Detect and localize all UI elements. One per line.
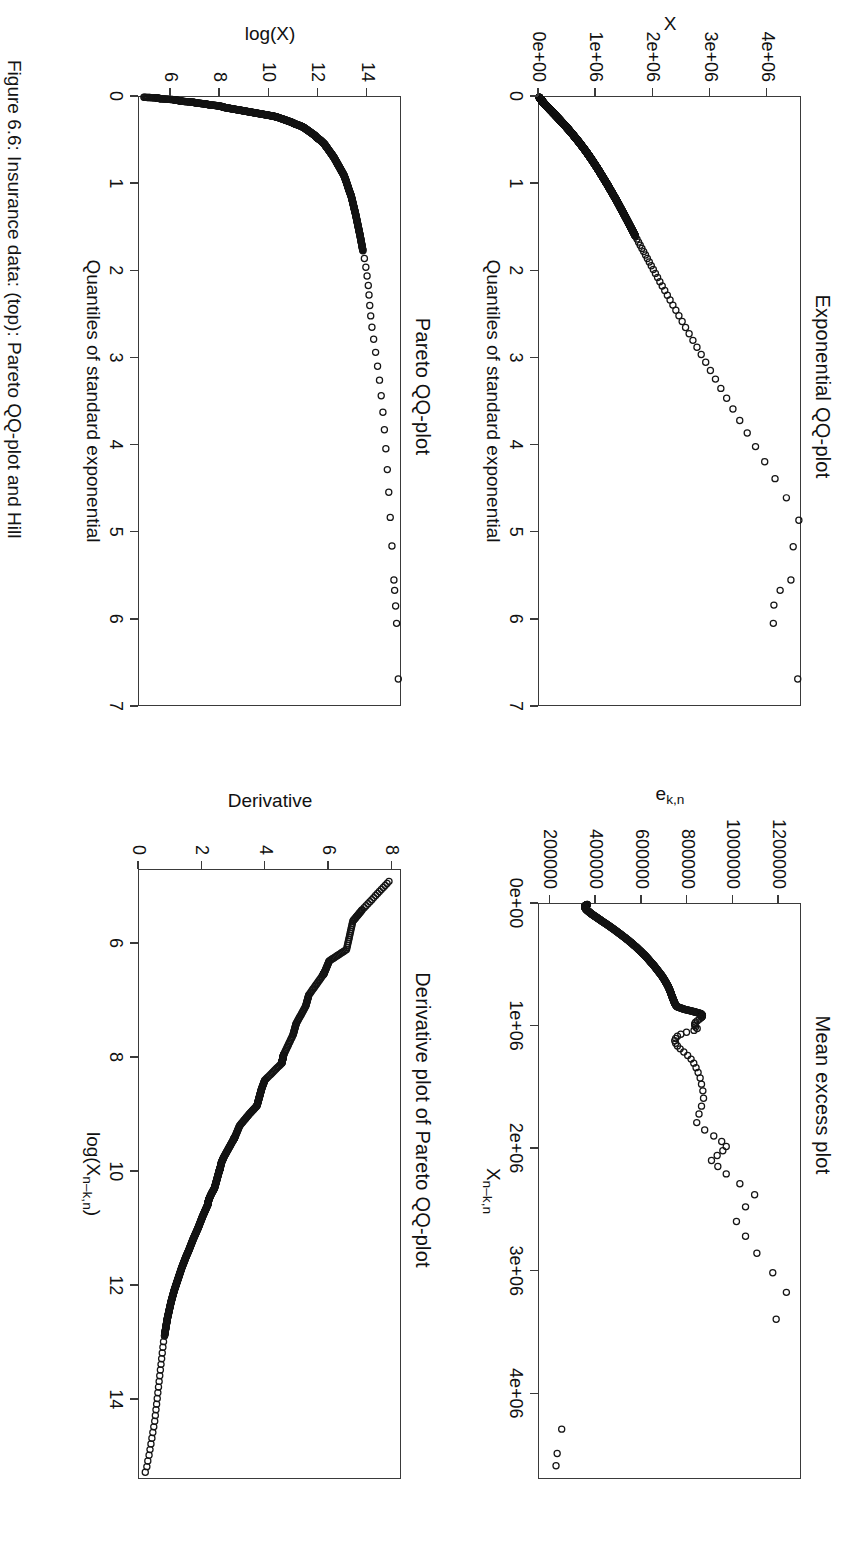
xticklabel-derivative-pareto-qq: 10 xyxy=(105,1161,126,1181)
xticklabel-mean-excess: 0e+00 xyxy=(505,878,526,929)
ytick-mean-excess xyxy=(640,895,641,903)
xtick-derivative-pareto-qq xyxy=(130,942,138,943)
xticklabel-exponential-qq: 0 xyxy=(505,91,526,101)
xtick-pareto-qq xyxy=(130,357,138,358)
xtick-derivative-pareto-qq xyxy=(130,1170,138,1171)
xtick-mean-excess xyxy=(530,902,538,903)
ytick-derivative-pareto-qq xyxy=(264,861,265,869)
xticklabel-exponential-qq: 2 xyxy=(505,265,526,275)
xtick-exponential-qq xyxy=(530,357,538,358)
yticklabel-exponential-qq: 3e+06 xyxy=(699,31,720,82)
panel-derivative-pareto-qq: Derivative plot of Pareto QQ-plot 681012… xyxy=(36,773,456,1547)
plot-area-mean-excess xyxy=(538,903,801,1479)
xtick-derivative-pareto-qq xyxy=(130,1284,138,1285)
panel-mean-excess: Mean excess plot 0e+001e+062e+063e+064e+… xyxy=(456,773,856,1547)
yticklabel-derivative-pareto-qq: 8 xyxy=(381,845,402,855)
ytick-derivative-pareto-qq xyxy=(137,861,138,869)
xticklabel-pareto-qq: 3 xyxy=(105,352,126,362)
yaxis-title-derivative-pareto-qq: Derivative xyxy=(228,790,312,812)
xtick-pareto-qq xyxy=(130,95,138,96)
yticklabel-pareto-qq: 6 xyxy=(159,72,180,82)
plot-canvas-derivative-pareto-qq xyxy=(139,870,400,1478)
yaxis-title-exponential-qq: X xyxy=(664,13,677,35)
ytick-mean-excess xyxy=(777,895,778,903)
xticklabel-pareto-qq: 4 xyxy=(105,440,126,450)
ytick-exponential-qq xyxy=(652,88,653,96)
xtick-exponential-qq xyxy=(530,705,538,706)
panel-exponential-qq: Exponential QQ-plot 012345670e+001e+062e… xyxy=(456,0,856,773)
xtick-pareto-qq xyxy=(130,444,138,445)
plot-area-pareto-qq xyxy=(138,96,401,706)
ytick-pareto-qq xyxy=(268,88,269,96)
xtick-mean-excess xyxy=(530,1147,538,1148)
xaxis-title-mean-excess: Xn–k,n xyxy=(480,1168,504,1214)
ytick-mean-excess xyxy=(549,895,550,903)
yticklabel-derivative-pareto-qq: 4 xyxy=(254,845,275,855)
ytick-pareto-qq xyxy=(169,88,170,96)
xtick-mean-excess xyxy=(530,1025,538,1026)
yticklabel-pareto-qq: 10 xyxy=(258,62,279,82)
ytick-mean-excess xyxy=(686,895,687,903)
yticklabel-mean-excess: 800000 xyxy=(676,829,697,889)
yticklabel-exponential-qq: 2e+06 xyxy=(642,31,663,82)
xticklabel-exponential-qq: 7 xyxy=(505,701,526,711)
panel-title-mean-excess: Mean excess plot xyxy=(811,643,834,1547)
xticklabel-mean-excess: 1e+06 xyxy=(505,1000,526,1051)
yticklabel-exponential-qq: 0e+00 xyxy=(528,31,549,82)
yticklabel-mean-excess: 200000 xyxy=(539,829,560,889)
xticklabel-exponential-qq: 5 xyxy=(505,527,526,537)
yticklabel-exponential-qq: 1e+06 xyxy=(585,31,606,82)
xtick-exponential-qq xyxy=(530,444,538,445)
yticklabel-mean-excess: 400000 xyxy=(585,829,606,889)
yticklabel-pareto-qq: 8 xyxy=(209,72,230,82)
xticklabel-pareto-qq: 0 xyxy=(105,91,126,101)
yaxis-title-mean-excess: ek,n xyxy=(656,783,685,807)
xticklabel-derivative-pareto-qq: 14 xyxy=(105,1389,126,1409)
xaxis-title-pareto-qq: Quantiles of standard exponential xyxy=(82,259,104,542)
panel-title-derivative-pareto-qq: Derivative plot of Pareto QQ-plot xyxy=(411,693,434,1547)
ytick-derivative-pareto-qq xyxy=(201,861,202,869)
xtick-pareto-qq xyxy=(130,270,138,271)
yticklabel-derivative-pareto-qq: 2 xyxy=(191,845,212,855)
plot-canvas-pareto-qq xyxy=(139,97,400,705)
yticklabel-mean-excess: 600000 xyxy=(630,829,651,889)
ytick-pareto-qq xyxy=(317,88,318,96)
xticklabel-pareto-qq: 1 xyxy=(105,178,126,188)
yticklabel-exponential-qq: 4e+06 xyxy=(756,31,777,82)
ytick-pareto-qq xyxy=(366,88,367,96)
plot-canvas-exponential-qq xyxy=(539,97,800,705)
ytick-mean-excess xyxy=(594,895,595,903)
yaxis-title-pareto-qq: log(X) xyxy=(245,23,296,45)
xtick-exponential-qq xyxy=(530,618,538,619)
ytick-exponential-qq xyxy=(537,88,538,96)
xticklabel-derivative-pareto-qq: 8 xyxy=(105,1052,126,1062)
xtick-exponential-qq xyxy=(530,270,538,271)
ytick-exponential-qq xyxy=(766,88,767,96)
xticklabel-exponential-qq: 4 xyxy=(505,440,526,450)
rotated-figure-page: Exponential QQ-plot 012345670e+001e+062e… xyxy=(0,0,856,1547)
yticklabel-pareto-qq: 12 xyxy=(307,62,328,82)
ytick-exponential-qq xyxy=(709,88,710,96)
xticklabel-exponential-qq: 6 xyxy=(505,614,526,624)
figure-2x2-grid: Exponential QQ-plot 012345670e+001e+062e… xyxy=(0,0,856,1547)
xticklabel-pareto-qq: 5 xyxy=(105,527,126,537)
xticklabel-exponential-qq: 3 xyxy=(505,352,526,362)
xtick-mean-excess xyxy=(530,1270,538,1271)
xtick-pareto-qq xyxy=(130,618,138,619)
panel-pareto-qq: Pareto QQ-plot 0123456768101214 Quantile… xyxy=(36,0,456,773)
yticklabel-mean-excess: 1200000 xyxy=(768,819,789,889)
plot-area-exponential-qq xyxy=(538,96,801,706)
xticklabel-mean-excess: 4e+06 xyxy=(505,1368,526,1419)
xticklabel-pareto-qq: 6 xyxy=(105,614,126,624)
xaxis-title-exponential-qq: Quantiles of standard exponential xyxy=(482,259,504,542)
ytick-pareto-qq xyxy=(218,88,219,96)
plot-area-derivative-pareto-qq xyxy=(138,869,401,1479)
xticklabel-exponential-qq: 1 xyxy=(505,178,526,188)
xtick-exponential-qq xyxy=(530,531,538,532)
figure-caption: Figure 6.6: Insurance data: (top): Paret… xyxy=(2,60,26,1537)
xticklabel-mean-excess: 3e+06 xyxy=(505,1245,526,1296)
xtick-derivative-pareto-qq xyxy=(130,1398,138,1399)
yticklabel-derivative-pareto-qq: 0 xyxy=(128,845,149,855)
xticklabel-pareto-qq: 7 xyxy=(105,701,126,711)
xtick-pareto-qq xyxy=(130,182,138,183)
